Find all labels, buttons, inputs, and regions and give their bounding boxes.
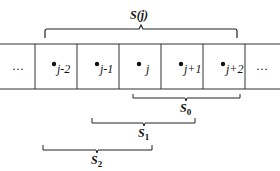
top-brace-label: S(j)	[130, 8, 148, 23]
cell-label-j-1: j-1	[100, 62, 113, 77]
diagram-lines	[0, 0, 280, 171]
brace-label-s1: S1	[138, 126, 149, 142]
cell-label-j+1: j+1	[184, 62, 201, 77]
cell-label-j: j	[146, 62, 149, 77]
cell-ellipsis-right: …	[256, 59, 268, 74]
cell-ellipsis-left: …	[12, 59, 24, 74]
cell-label-j-2: j-2	[57, 62, 70, 77]
cell-label-j+2: j+2	[226, 62, 243, 77]
brace-label-s0: S0	[180, 101, 191, 117]
brace-label-s2: S2	[91, 153, 102, 169]
